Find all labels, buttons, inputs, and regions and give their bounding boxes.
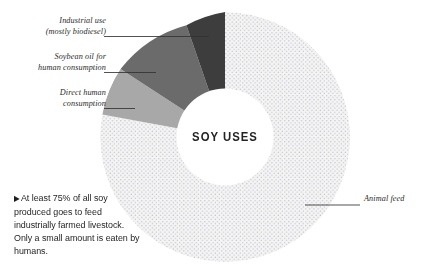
label-direct-human-consumption: Direct human consumption: [14, 88, 106, 109]
explanatory-note: ▶At least 75% of all soy produced goes t…: [14, 191, 140, 258]
label-soybean-oil: Soybean oil for human consumption: [6, 52, 106, 73]
chart-center-title: SOY USES: [170, 129, 279, 144]
label-animal-feed: Animal feed: [364, 194, 418, 205]
explanatory-note-text: At least 75% of all soy produced goes to…: [14, 192, 140, 256]
label-industrial-use: Industrial use (mostly biodiesel): [14, 16, 106, 37]
triangle-bullet-icon: ▶: [14, 194, 20, 203]
soy-uses-infographic: SOY USES Industrial use (mostly biodiese…: [0, 0, 421, 275]
